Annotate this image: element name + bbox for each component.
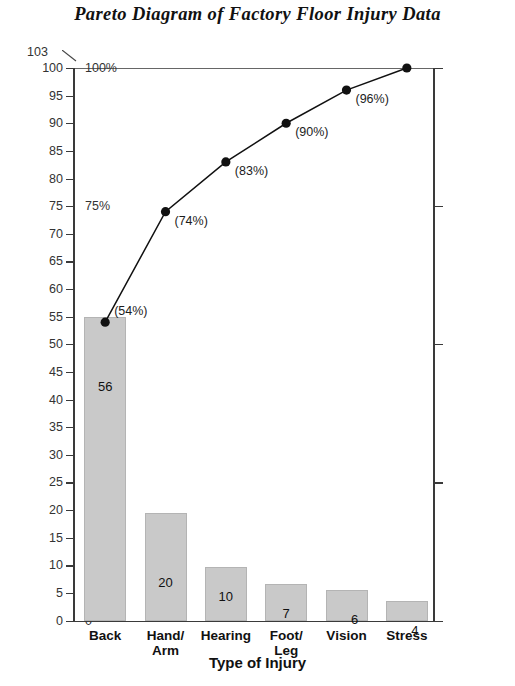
cumulative-percent-label: (83%) xyxy=(235,164,268,178)
y-axis-left-tick-label: 20 xyxy=(49,503,63,517)
cumulative-percent-label: (96%) xyxy=(356,92,389,106)
y-axis-left-tick-label: 85 xyxy=(49,144,63,158)
tick-mark xyxy=(66,621,73,622)
cumulative-line xyxy=(105,68,407,322)
cumulative-marker[interactable] xyxy=(402,63,411,72)
x-axis-title: Type of Injury xyxy=(0,654,515,671)
y-axis-left-tick-label: 100 xyxy=(42,61,63,75)
tick-mark xyxy=(435,206,443,207)
tick-mark xyxy=(435,482,443,483)
y-axis-left-tick-label: 30 xyxy=(49,448,63,462)
y-axis-left-tick-label: 65 xyxy=(49,254,63,268)
tick-mark xyxy=(66,593,73,594)
tick-mark xyxy=(66,510,73,511)
cumulative-marker[interactable] xyxy=(221,157,230,166)
cumulative-marker[interactable] xyxy=(101,318,110,327)
tick-mark xyxy=(66,482,73,483)
cumulative-marker[interactable] xyxy=(282,119,291,128)
y-axis-left-tick-label: 75 xyxy=(49,199,63,213)
tick-mark xyxy=(66,372,73,373)
x-axis-category-label: Hearing xyxy=(201,628,251,643)
x-axis-category-label: Foot/ Leg xyxy=(270,628,303,658)
y-axis-left-tick-label: 45 xyxy=(49,365,63,379)
y-axis-left-tick-label: 25 xyxy=(49,475,63,489)
y-axis-left-tick-label: 70 xyxy=(49,227,63,241)
tick-mark xyxy=(66,455,73,456)
tick-mark xyxy=(66,344,73,345)
y-axis-total-callout-label: 103 xyxy=(27,45,48,59)
tick-mark xyxy=(435,68,443,69)
tick-mark xyxy=(66,68,73,69)
tick-mark xyxy=(66,123,73,124)
cumulative-line-chart xyxy=(73,58,435,622)
x-axis-category-label: Vision xyxy=(326,628,366,643)
tick-mark xyxy=(66,179,73,180)
tick-mark xyxy=(435,344,443,345)
cumulative-percent-label: (54%) xyxy=(114,304,147,318)
y-axis-left-tick-label: 55 xyxy=(49,310,63,324)
chart-title: Pareto Diagram of Factory Floor Injury D… xyxy=(0,4,515,25)
tick-mark xyxy=(66,427,73,428)
cumulative-percent-label: (90%) xyxy=(295,125,328,139)
y-axis-left-tick-label: 35 xyxy=(49,420,63,434)
tick-mark xyxy=(66,234,73,235)
y-axis-left-tick-label: 60 xyxy=(49,282,63,296)
y-axis-left-tick-label: 50 xyxy=(49,337,63,351)
tick-mark xyxy=(66,538,73,539)
x-axis-category-label: Back xyxy=(89,628,121,643)
x-axis-category-label: Hand/ Arm xyxy=(147,628,185,658)
tick-mark xyxy=(66,151,73,152)
y-axis-left-tick-label: 0 xyxy=(56,614,63,628)
cumulative-marker[interactable] xyxy=(161,207,170,216)
tick-mark xyxy=(66,400,73,401)
tick-mark xyxy=(66,289,73,290)
plot-area: 0510152025303540455055606570758085909510… xyxy=(73,58,435,622)
tick-mark xyxy=(66,206,73,207)
x-axis-category-label: Stress xyxy=(386,628,427,643)
y-axis-left-tick-label: 90 xyxy=(49,116,63,130)
y-axis-left-tick-label: 5 xyxy=(56,586,63,600)
y-axis-left-tick-label: 40 xyxy=(49,393,63,407)
y-axis-left-tick-label: 10 xyxy=(49,558,63,572)
y-axis-left-tick-label: 15 xyxy=(49,531,63,545)
tick-mark xyxy=(66,565,73,566)
y-axis-left-tick-label: 95 xyxy=(49,89,63,103)
tick-mark xyxy=(66,261,73,262)
cumulative-percent-label: (74%) xyxy=(175,214,208,228)
tick-mark xyxy=(66,96,73,97)
tick-mark xyxy=(435,621,443,622)
cumulative-marker[interactable] xyxy=(342,86,351,95)
tick-mark xyxy=(66,317,73,318)
y-axis-left-tick-label: 80 xyxy=(49,172,63,186)
